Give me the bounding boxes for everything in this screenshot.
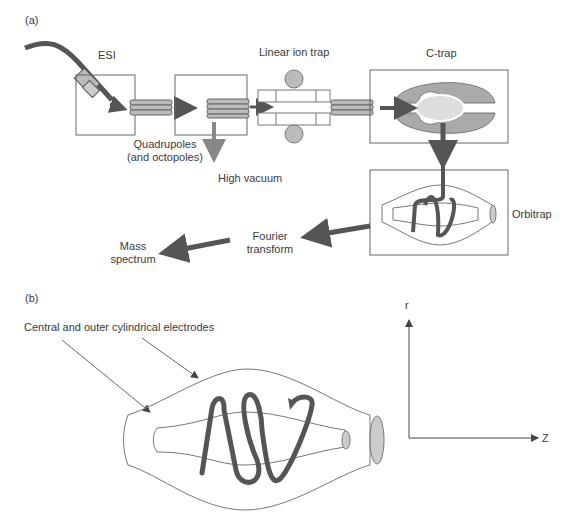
quadrupole-1 [130,100,172,115]
panel-a-label: (a) [25,14,38,27]
quadrupoles-line2: (and octopoles) [115,151,215,164]
orbitrap-small [382,165,496,245]
orbitrap-large [124,369,385,510]
mass-spectrum-label: Mass spectrum [98,240,168,266]
axes [409,320,538,438]
panel-b-label: (b) [25,292,38,305]
electrodes-label: Central and outer cylindrical electrodes [24,321,214,334]
linear-ion-trap-label: Linear ion trap [259,46,329,59]
mass-line2: spectrum [98,253,168,266]
fourier-label: Fourier transform [235,230,305,256]
linear-ion-trap [258,70,330,143]
high-vacuum-label: High vacuum [218,172,282,185]
esi-label: ESI [98,49,116,62]
mass-line1: Mass [98,240,168,253]
axis-z-label: Z [542,432,549,445]
quadrupoles-line1: Quadrupoles [115,138,215,151]
c-trap-label: C-trap [426,47,457,60]
quadrupoles-label: Quadrupoles (and octopoles) [115,138,215,164]
fourier-line2: transform [235,243,305,256]
quadrupole-2 [331,100,373,115]
octopole [207,99,249,118]
orbitrap-label: Orbitrap [512,208,552,221]
fourier-line1: Fourier [235,230,305,243]
axis-r-label: r [405,299,409,312]
orbitrap-diagram [0,0,573,525]
